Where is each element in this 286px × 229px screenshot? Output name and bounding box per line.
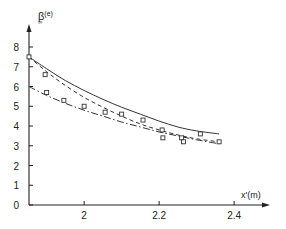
x-tick-label: 2.4 bbox=[227, 210, 241, 221]
y-tick-label: 8 bbox=[13, 42, 19, 53]
square-marker-icon bbox=[141, 118, 145, 122]
chart: 01234567822.22.4 β(e) ∞ x'(m) bbox=[0, 0, 286, 229]
y-tick-label: 3 bbox=[13, 141, 19, 152]
square-marker-icon bbox=[27, 55, 31, 59]
y-axis-arrow-icon bbox=[27, 24, 32, 32]
square-marker-icon bbox=[82, 104, 86, 108]
square-marker-icon bbox=[43, 73, 47, 77]
square-marker-icon bbox=[120, 112, 124, 116]
y-axis-label-sup: (e) bbox=[44, 10, 53, 18]
solid-curve bbox=[29, 57, 219, 134]
y-tick-label: 6 bbox=[13, 82, 19, 93]
y-tick-label: 7 bbox=[13, 62, 19, 73]
axes bbox=[27, 24, 271, 208]
square-marker-icon bbox=[198, 132, 202, 136]
square-marker-icon bbox=[103, 110, 107, 114]
square-marker-icon bbox=[217, 140, 221, 144]
square-marker-icon bbox=[160, 128, 164, 132]
curves bbox=[29, 57, 219, 144]
square-marker-icon bbox=[161, 136, 165, 140]
x-axis-arrow-icon bbox=[262, 203, 270, 208]
x-tick-label: 2.2 bbox=[152, 210, 166, 221]
y-tick-label: 4 bbox=[13, 121, 19, 132]
y-tick-label: 5 bbox=[13, 101, 19, 112]
y-tick-label: 1 bbox=[13, 180, 19, 191]
x-tick-label: 2 bbox=[81, 210, 87, 221]
square-marker-icon bbox=[182, 140, 186, 144]
square-marker-icon bbox=[62, 98, 66, 102]
y-axis-label-sub: ∞ bbox=[38, 19, 42, 25]
square-marker-icon bbox=[45, 90, 49, 94]
y-tick-label: 2 bbox=[13, 161, 19, 172]
y-tick-label: 0 bbox=[13, 200, 19, 211]
square-marker-icon bbox=[180, 136, 184, 140]
x-axis-label: x'(m) bbox=[241, 190, 261, 200]
axis-labels: β(e) ∞ x'(m) bbox=[38, 10, 261, 200]
dashed-curve bbox=[29, 57, 219, 142]
